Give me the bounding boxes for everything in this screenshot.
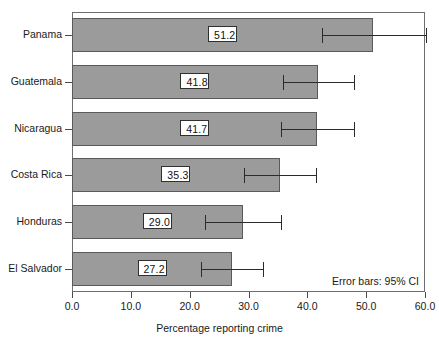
x-axis-tick bbox=[249, 292, 250, 298]
error-bar-cap-high bbox=[281, 215, 282, 230]
x-axis-tick bbox=[307, 292, 308, 298]
y-axis-label-nicaragua: Nicaragua bbox=[14, 122, 62, 134]
x-axis-tick-label: 20.0 bbox=[170, 300, 210, 312]
y-axis-tick bbox=[65, 222, 72, 223]
y-axis-tick bbox=[65, 82, 72, 83]
bar-value-label: 29.0 bbox=[143, 213, 172, 229]
y-axis-label-costa-rica: Costa Rica bbox=[11, 168, 62, 180]
error-bar-cap-high bbox=[316, 168, 317, 183]
error-bar-line bbox=[205, 222, 281, 223]
plot-area bbox=[72, 12, 425, 292]
x-axis-tick-label: 0.0 bbox=[52, 300, 92, 312]
error-bar-cap-low bbox=[244, 168, 245, 183]
y-axis-label-el-salvador: El Salvador bbox=[8, 262, 62, 274]
error-bar-cap-low bbox=[283, 75, 284, 90]
y-axis-label-panama: Panama bbox=[23, 28, 62, 40]
error-bar-cap-low bbox=[205, 215, 206, 230]
y-axis-tick bbox=[65, 129, 72, 130]
x-axis-tick bbox=[190, 292, 191, 298]
y-axis-label-honduras: Honduras bbox=[16, 215, 62, 227]
x-axis-tick-label: 40.0 bbox=[287, 300, 327, 312]
x-axis-tick-label: 60.0 bbox=[405, 300, 439, 312]
error-bar-cap-high bbox=[426, 28, 427, 43]
x-axis-tick-label: 50.0 bbox=[346, 300, 386, 312]
bar-value-label: 35.3 bbox=[161, 166, 190, 182]
error-bar-cap-low bbox=[281, 122, 282, 137]
x-axis-tick-label: 10.0 bbox=[111, 300, 151, 312]
bar-value-label: 51.2 bbox=[208, 26, 237, 42]
error-bar-cap-low bbox=[201, 262, 202, 277]
error-bar-line bbox=[281, 129, 353, 130]
x-axis-tick-label: 30.0 bbox=[229, 300, 269, 312]
error-bar-annotation: Error bars: 95% CI bbox=[332, 275, 419, 287]
x-axis-tick bbox=[366, 292, 367, 298]
x-axis-tick bbox=[131, 292, 132, 298]
error-bar-cap-high bbox=[263, 262, 264, 277]
bar-value-label: 41.7 bbox=[180, 120, 209, 136]
x-axis-tick bbox=[425, 292, 426, 298]
y-axis-tick bbox=[65, 269, 72, 270]
x-axis-title: Percentage reporting crime bbox=[0, 322, 439, 334]
y-axis-tick bbox=[65, 175, 72, 176]
bar-value-label: 27.2 bbox=[138, 260, 167, 276]
error-bar-line bbox=[322, 35, 426, 36]
x-axis-tick bbox=[72, 292, 73, 298]
bar-value-label: 41.8 bbox=[180, 73, 209, 89]
error-bar-line bbox=[283, 82, 355, 83]
error-bar-line bbox=[201, 269, 263, 270]
error-bar-line bbox=[244, 175, 316, 176]
error-bar-cap-high bbox=[354, 122, 355, 137]
y-axis-tick bbox=[65, 35, 72, 36]
error-bar-cap-low bbox=[322, 28, 323, 43]
error-bar-cap-high bbox=[354, 75, 355, 90]
y-axis-label-guatemala: Guatemala bbox=[11, 75, 62, 87]
bar-chart: 51.2Panama41.8Guatemala41.7Nicaragua35.3… bbox=[0, 0, 439, 340]
